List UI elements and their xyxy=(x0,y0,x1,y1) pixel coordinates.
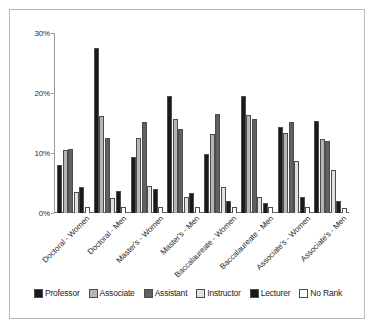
bar-group xyxy=(202,33,239,213)
x-axis-labels: Doctoral - WomenDoctoral - MenMaster's -… xyxy=(55,214,349,294)
bar xyxy=(147,186,152,213)
legend-swatch-icon xyxy=(144,289,153,298)
bar xyxy=(305,207,310,213)
bar xyxy=(63,150,68,213)
bar xyxy=(336,201,341,213)
bar-groups xyxy=(55,33,349,213)
legend-label: Instructor xyxy=(207,288,240,298)
bar xyxy=(79,187,84,213)
legend-swatch-icon xyxy=(250,289,259,298)
bar xyxy=(289,122,294,213)
bar xyxy=(195,207,200,213)
bar xyxy=(131,157,136,213)
legend-label: Professor xyxy=(45,288,80,298)
bar xyxy=(167,96,172,213)
bar xyxy=(189,193,194,213)
bar xyxy=(158,207,163,213)
bar xyxy=(110,198,115,213)
bar xyxy=(300,197,305,213)
bar xyxy=(294,161,299,213)
legend-label: No Rank xyxy=(310,288,342,298)
bar xyxy=(320,139,325,213)
bar xyxy=(74,192,79,213)
bar-group xyxy=(312,33,349,213)
bar-group xyxy=(92,33,129,213)
chart-legend: ProfessorAssociateAssistantInstructorLec… xyxy=(10,288,366,298)
bar xyxy=(221,187,226,213)
bar xyxy=(204,154,209,213)
bar xyxy=(232,207,237,213)
bar xyxy=(278,127,283,213)
bar xyxy=(105,138,110,213)
bar xyxy=(283,133,288,213)
bar-group xyxy=(129,33,166,213)
bar-group xyxy=(239,33,276,213)
bar xyxy=(257,197,262,213)
legend-item[interactable]: Associate xyxy=(89,288,135,298)
y-tick-label: 10% xyxy=(35,149,50,158)
bar xyxy=(246,115,251,213)
bar xyxy=(263,203,268,213)
bar xyxy=(252,119,257,213)
bar xyxy=(153,189,158,213)
bar xyxy=(210,134,215,213)
bar xyxy=(68,149,73,213)
bar xyxy=(178,129,183,213)
bar xyxy=(142,122,147,213)
y-tick-mark xyxy=(51,33,54,34)
chart-frame: 0%10%20%30% Doctoral - WomenDoctoral - M… xyxy=(9,9,365,319)
bar xyxy=(136,138,141,213)
x-axis-label: Doctoral - Women xyxy=(41,214,92,265)
legend-label: Lecturer xyxy=(261,288,291,298)
legend-item[interactable]: No Rank xyxy=(299,288,342,298)
plot-area: 0%10%20%30% xyxy=(54,33,349,213)
bar xyxy=(268,207,273,213)
y-tick-mark xyxy=(51,153,54,154)
x-axis-label: Baccalaureate - Women xyxy=(173,214,238,279)
bar xyxy=(325,141,330,213)
bar xyxy=(99,116,104,213)
bar xyxy=(94,48,99,213)
bar xyxy=(116,191,121,213)
y-tick-label: 30% xyxy=(35,29,50,38)
bar-group xyxy=(276,33,313,213)
legend-item[interactable]: Professor xyxy=(34,288,80,298)
bar xyxy=(342,208,347,213)
bar xyxy=(85,207,90,213)
bar xyxy=(331,170,336,213)
y-tick-label: 20% xyxy=(35,89,50,98)
bar xyxy=(173,119,178,213)
legend-swatch-icon xyxy=(34,289,43,298)
bar xyxy=(121,207,126,213)
legend-item[interactable]: Assistant xyxy=(144,288,188,298)
bar xyxy=(184,197,189,213)
legend-item[interactable]: Instructor xyxy=(196,288,240,298)
bar-group xyxy=(165,33,202,213)
bar xyxy=(226,201,231,213)
bar xyxy=(241,96,246,213)
bar xyxy=(57,165,62,213)
legend-swatch-icon xyxy=(196,289,205,298)
legend-label: Associate xyxy=(100,288,135,298)
legend-label: Assistant xyxy=(155,288,188,298)
legend-swatch-icon xyxy=(89,289,98,298)
y-tick-label: 0% xyxy=(39,209,50,218)
bar xyxy=(314,121,319,213)
y-tick-mark xyxy=(51,93,54,94)
legend-swatch-icon xyxy=(299,289,308,298)
legend-item[interactable]: Lecturer xyxy=(250,288,291,298)
bar-group xyxy=(55,33,92,213)
y-tick-mark xyxy=(51,213,54,214)
bar xyxy=(215,114,220,213)
